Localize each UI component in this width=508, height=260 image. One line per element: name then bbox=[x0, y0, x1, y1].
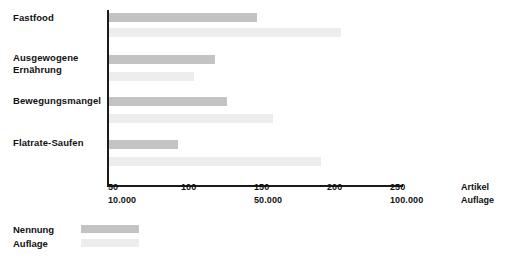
xtick-artikel-50: 50 bbox=[108, 182, 118, 192]
legend-swatch-nennung bbox=[81, 225, 139, 233]
xtick-artikel-250: 250 bbox=[390, 182, 405, 192]
xtick-auflage-10000: 10.000 bbox=[108, 195, 136, 205]
xtick-artikel-100: 100 bbox=[181, 182, 196, 192]
axis-name-artikel: Artikel bbox=[461, 182, 489, 192]
category-label-ausgewogene-ernaehrung: Ausgewogene Ernährung bbox=[13, 52, 107, 75]
bar-nennung-fastfood bbox=[109, 13, 257, 22]
category-label-line: Flatrate-Saufen bbox=[13, 137, 107, 149]
category-label-line: Bewegungsmangel bbox=[13, 95, 107, 107]
bar-auflage-fastfood bbox=[109, 28, 341, 37]
plot-area bbox=[107, 10, 502, 186]
xtick-auflage-50000: 50.000 bbox=[254, 195, 282, 205]
category-label-line: Fastfood bbox=[13, 12, 107, 24]
xtick-artikel-200: 200 bbox=[327, 182, 342, 192]
bar-auflage-ausgewogene-ernaehrung bbox=[109, 72, 194, 81]
legend-swatch-auflage bbox=[81, 239, 139, 247]
bar-nennung-ausgewogene-ernaehrung bbox=[109, 55, 215, 64]
category-label-flatrate-saufen: Flatrate-Saufen bbox=[13, 137, 107, 149]
xtick-auflage-100000: 100.000 bbox=[390, 195, 423, 205]
legend-label-nennung: Nennung bbox=[13, 224, 54, 235]
category-label-fastfood: Fastfood bbox=[13, 12, 107, 24]
category-label-line: Ernährung bbox=[13, 64, 107, 76]
axis-name-auflage: Auflage bbox=[461, 195, 494, 205]
legend-label-auflage: Auflage bbox=[13, 238, 48, 249]
bar-nennung-flatrate-saufen bbox=[109, 140, 178, 149]
bar-nennung-bewegungsmangel bbox=[109, 97, 227, 106]
category-label-line: Ausgewogene bbox=[13, 52, 107, 64]
bar-auflage-flatrate-saufen bbox=[109, 157, 321, 166]
category-label-bewegungsmangel: Bewegungsmangel bbox=[13, 95, 107, 107]
xtick-artikel-150: 150 bbox=[254, 182, 269, 192]
bar-auflage-bewegungsmangel bbox=[109, 114, 273, 123]
bar-chart: Fastfood Ausgewogene Ernährung Bewegungs… bbox=[0, 0, 508, 260]
